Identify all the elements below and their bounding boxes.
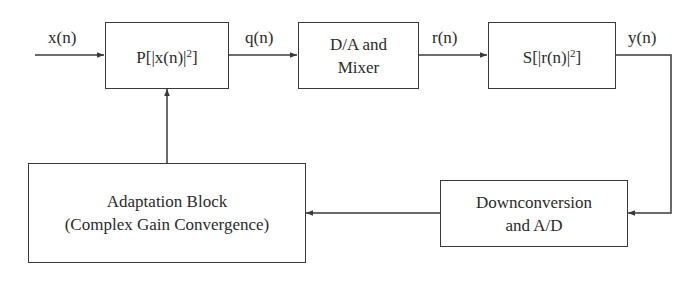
downconversion-line1: Downconversion <box>476 191 592 214</box>
adaptation-line1: Adaptation Block <box>107 190 227 213</box>
signal-label-r: r(n) <box>432 28 457 48</box>
predistorter-label: P[|x(n)|2] <box>136 42 197 69</box>
signal-label-x: x(n) <box>48 28 76 48</box>
amplifier-block: S[|r(n)|2] <box>488 22 616 89</box>
downconversion-block: Downconversion and A/D <box>440 180 628 247</box>
predistorter-block: P[|x(n)|2] <box>105 22 229 89</box>
adaptation-line2: (Complex Gain Convergence) <box>65 213 270 236</box>
predistorter-label-main: P[|x(n)| <box>136 48 186 67</box>
downconversion-line2: and A/D <box>505 214 562 237</box>
adaptation-block: Adaptation Block (Complex Gain Convergen… <box>28 163 306 263</box>
amplifier-label: S[|r(n)|2] <box>523 42 582 69</box>
predistorter-label-suffix: ] <box>192 48 198 67</box>
da-mixer-block: D/A and Mixer <box>298 22 419 89</box>
da-mixer-line2: Mixer <box>338 56 380 79</box>
amplifier-label-main: S[|r(n)| <box>523 48 570 67</box>
amplifier-label-suffix: ] <box>576 48 582 67</box>
da-mixer-line1: D/A and <box>330 33 387 56</box>
signal-label-q: q(n) <box>245 28 273 48</box>
signal-label-y: y(n) <box>628 28 656 48</box>
